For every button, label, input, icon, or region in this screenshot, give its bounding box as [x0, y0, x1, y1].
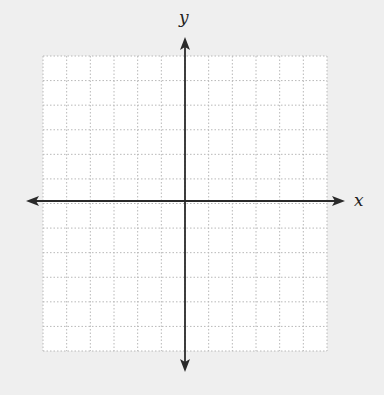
coordinate-plane-svg: x y: [0, 0, 384, 395]
x-axis-label: x: [354, 190, 364, 210]
coordinate-plane: x y: [0, 0, 384, 395]
y-axis-label: y: [178, 7, 189, 27]
